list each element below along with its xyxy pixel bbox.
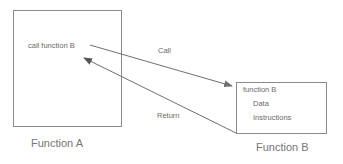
function-b-line-function-b: function B <box>243 86 276 94</box>
call-arrow-label: Call <box>158 47 171 55</box>
diagram-canvas: call function B function B Data Instruct… <box>0 0 343 164</box>
function-a-caption: Function A <box>31 138 83 149</box>
function-b-line-data: Data <box>253 100 269 108</box>
function-b-caption: Function B <box>256 142 309 153</box>
return-arrow <box>84 58 236 133</box>
function-a-line-call-function-b: call function B <box>28 42 75 50</box>
function-b-line-instructions: Instructions <box>253 114 291 122</box>
return-arrow-label: Return <box>157 112 180 120</box>
